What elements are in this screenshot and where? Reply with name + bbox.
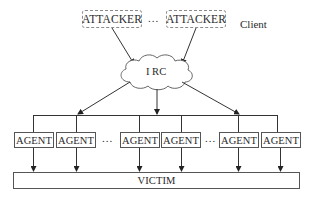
edge-irc-bus-left (78, 82, 130, 114)
agent-node-1: AGENT (14, 132, 54, 148)
agent-node-3: AGENT (120, 132, 160, 148)
bus-to-agent-lines (34, 115, 278, 132)
attacker-label: ATTACKER (82, 13, 142, 25)
agent-node-5: AGENT (219, 132, 259, 148)
agent-label: AGENT (163, 135, 199, 146)
agent-node-6: AGENT (261, 132, 301, 148)
agent-node-2: AGENT (56, 132, 96, 148)
agent-label: AGENT (58, 135, 94, 146)
attacker-node-1: ATTACKER (82, 10, 142, 28)
agent-label: AGENT (221, 135, 257, 146)
client-label: Client (240, 18, 267, 30)
agent-node-4: AGENT (161, 132, 201, 148)
edge-attacker2-irc (182, 28, 196, 64)
edge-attacker1-irc (112, 28, 134, 64)
victim-label: VICTIM (138, 175, 176, 186)
agent-to-victim-arrows (34, 148, 281, 171)
attacker-ellipsis: ... (148, 12, 159, 24)
agent-ellipsis-1: ... (102, 132, 113, 144)
agent-label: AGENT (263, 135, 299, 146)
irc-label: I RC (146, 66, 166, 77)
agent-ellipsis-2: ... (205, 132, 216, 144)
agent-label: AGENT (122, 135, 158, 146)
victim-node: VICTIM (13, 172, 300, 189)
agent-label: AGENT (16, 135, 52, 146)
edge-irc-bus-right (182, 82, 239, 114)
attacker-node-2: ATTACKER (166, 10, 226, 28)
attacker-label: ATTACKER (166, 13, 226, 25)
